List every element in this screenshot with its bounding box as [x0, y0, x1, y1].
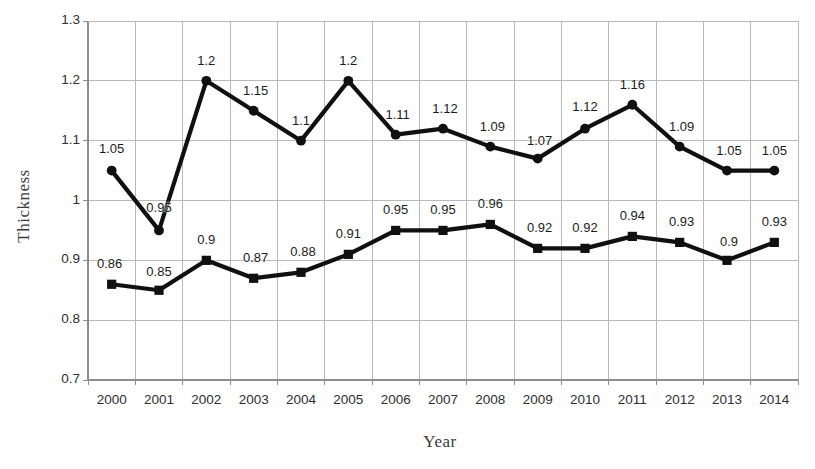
x-tick-label: 2014 — [746, 392, 802, 407]
y-tick-label: 1.3 — [32, 12, 80, 27]
data-point-label: 1.2 — [322, 53, 374, 68]
data-point-label: 0.96 — [464, 196, 516, 211]
data-point-label: 0.92 — [559, 220, 611, 235]
data-point-label: 1.05 — [86, 141, 138, 156]
data-point-label: 1.05 — [748, 143, 800, 158]
y-tick-label: 1 — [32, 192, 80, 207]
line-chart: Thickness Year 0.70.80.911.11.21.3 20002… — [0, 0, 815, 469]
data-point-label: 0.95 — [417, 202, 469, 217]
data-point-label: 1.12 — [419, 101, 471, 116]
data-point-label: 0.92 — [514, 220, 566, 235]
data-point-label: 1.05 — [703, 143, 755, 158]
data-point-label: 0.93 — [748, 214, 800, 229]
data-point-label: 0.9 — [703, 234, 755, 249]
data-point-label: 0.87 — [230, 250, 282, 265]
data-point-label: 0.93 — [656, 214, 708, 229]
data-point-label: 0.86 — [84, 256, 136, 271]
data-point-label: 1.09 — [656, 119, 708, 134]
data-point-label: 0.95 — [133, 200, 185, 215]
data-point-label: 1.1 — [275, 113, 327, 128]
data-point-label: 1.11 — [372, 107, 424, 122]
data-point-label: 1.2 — [180, 53, 232, 68]
y-tick-label: 0.9 — [32, 251, 80, 266]
data-point-label: 1.12 — [559, 99, 611, 114]
data-point-label: 0.9 — [180, 232, 232, 247]
data-point-label: 0.88 — [277, 244, 329, 259]
y-tick-label: 1.2 — [32, 72, 80, 87]
y-axis-title: Thickness — [14, 151, 34, 261]
x-axis-title: Year — [400, 432, 480, 452]
y-tick-label: 1.1 — [32, 132, 80, 147]
gridlines — [88, 21, 798, 380]
y-tick-label: 0.8 — [32, 311, 80, 326]
data-point-label: 0.94 — [606, 208, 658, 223]
data-point-label: 0.95 — [370, 202, 422, 217]
data-point-label: 1.16 — [606, 77, 658, 92]
data-point-label: 1.07 — [514, 133, 566, 148]
y-tick-label: 0.7 — [32, 371, 80, 386]
data-point-label: 0.85 — [133, 264, 185, 279]
data-point-label: 1.15 — [230, 83, 282, 98]
data-point-label: 0.91 — [322, 226, 374, 241]
data-point-label: 1.09 — [466, 119, 518, 134]
